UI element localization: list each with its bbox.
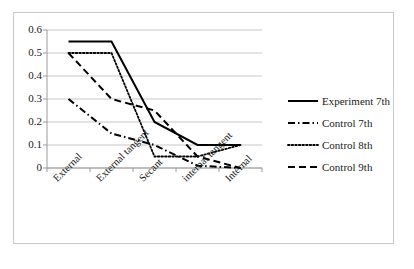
y-tick-marks	[43, 30, 47, 168]
y-tick-label: 0	[8, 162, 42, 173]
chart-plot-area	[0, 0, 414, 269]
legend-label-1: Experiment 7th	[322, 95, 390, 107]
y-tick-label: 0.2	[8, 116, 42, 127]
y-tick-label: 0.6	[8, 24, 42, 35]
y-tick-label: 0.4	[8, 70, 42, 81]
y-tick-label: 0.3	[8, 93, 42, 104]
series-line-1	[69, 42, 241, 146]
chart-figure: 0.60.50.40.30.20.10 ExternalExternal tan…	[0, 0, 414, 269]
legend-label-4: Control 9th	[322, 161, 372, 173]
legend-label-3: Control 8th	[322, 139, 372, 151]
y-tick-label: 0.5	[8, 47, 42, 58]
legend-swatch-group	[288, 101, 318, 167]
legend-label-2: Control 7th	[322, 117, 372, 129]
y-tick-label: 0.1	[8, 139, 42, 150]
